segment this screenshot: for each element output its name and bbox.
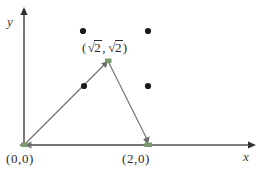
x-axis-label: x: [243, 150, 249, 163]
vertex-base-right: [145, 143, 153, 148]
vertex-origin: [21, 143, 28, 148]
radical-sqrt-2-second: √2: [107, 40, 122, 55]
y-axis: [20, 7, 27, 145]
lattice-points: [80, 28, 151, 89]
triangle-vertices: [21, 59, 152, 148]
radical-sqrt-2-first: √2: [87, 40, 102, 55]
base-right-point-label: (2,0): [122, 152, 150, 165]
vertex-apex: [105, 59, 112, 64]
diagram-canvas: y x (0,0) (2,0) (√2, √2): [0, 0, 267, 181]
apex-comma: ,: [102, 40, 106, 55]
radicand-second: 2: [115, 40, 123, 55]
triangle-edges: [24, 61, 150, 149]
radicand-first: 2: [94, 40, 102, 55]
dot-upper-left: [80, 28, 86, 34]
apex-close-paren: ): [123, 40, 128, 55]
dot-mid-right: [145, 83, 151, 89]
apex-point-label: (√2, √2): [82, 40, 128, 55]
dot-mid-left: [81, 83, 87, 89]
y-axis-label: y: [7, 15, 13, 28]
dot-upper-right: [145, 28, 151, 34]
origin-point-label: (0,0): [6, 152, 34, 165]
